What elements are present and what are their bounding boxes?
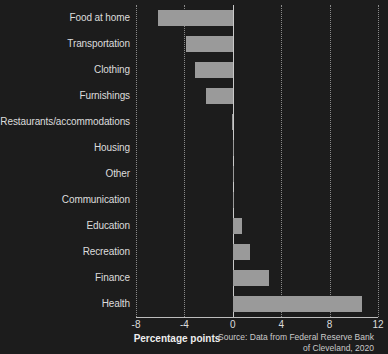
bar <box>233 218 243 234</box>
bar-row <box>136 188 378 212</box>
y-axis-label: Recreation <box>0 240 130 264</box>
bar <box>232 114 233 130</box>
bar-row <box>136 58 378 82</box>
bar <box>158 10 233 26</box>
bar-row <box>136 32 378 56</box>
x-axis-line <box>136 317 378 318</box>
x-axis-tick-label: 8 <box>315 319 345 330</box>
bar <box>233 296 362 312</box>
y-axis-label: Health <box>0 292 130 316</box>
x-axis-tick-label: 4 <box>266 319 296 330</box>
bar-row <box>136 266 378 290</box>
bar-row <box>136 110 378 134</box>
bar-row <box>136 292 378 316</box>
bar-row <box>136 6 378 30</box>
bar <box>186 36 233 52</box>
bar <box>233 270 269 286</box>
bar <box>233 166 234 182</box>
y-axis-label: Food at home <box>0 6 130 30</box>
bar-row <box>136 162 378 186</box>
x-axis-tick-label: -4 <box>169 319 199 330</box>
bar-row <box>136 136 378 160</box>
y-axis-label: Housing <box>0 136 130 160</box>
bar-row <box>136 84 378 108</box>
source-line-1: Source: Data from Federal Reserve Bank <box>204 332 374 343</box>
bar-rows <box>136 5 378 317</box>
y-axis-label: Communication <box>0 188 130 212</box>
bar <box>195 62 233 78</box>
x-axis-tick-label: 12 <box>363 319 388 330</box>
bar <box>233 192 234 208</box>
x-axis-tick-label: 0 <box>218 319 248 330</box>
bar-row <box>136 240 378 264</box>
gridline-12 <box>378 5 379 317</box>
bar <box>233 140 234 156</box>
x-axis-tick-label: -8 <box>121 319 151 330</box>
y-axis-label: Transportation <box>0 32 130 56</box>
y-axis-label: Finance <box>0 266 130 290</box>
y-axis-label: Restaurants/accommodations <box>0 110 130 134</box>
bar <box>206 88 233 104</box>
y-axis-label: Furnishings <box>0 84 130 108</box>
source-note: Source: Data from Federal Reserve Bank o… <box>204 332 374 353</box>
plot-area <box>136 5 378 317</box>
y-axis-label: Other <box>0 162 130 186</box>
y-axis-label: Clothing <box>0 58 130 82</box>
y-axis-label: Education <box>0 214 130 238</box>
bar <box>233 244 250 260</box>
source-line-2: of Cleveland, 2020 <box>204 343 374 354</box>
bar-row <box>136 214 378 238</box>
y-axis-labels: Food at homeTransportationClothingFurnis… <box>0 5 130 317</box>
